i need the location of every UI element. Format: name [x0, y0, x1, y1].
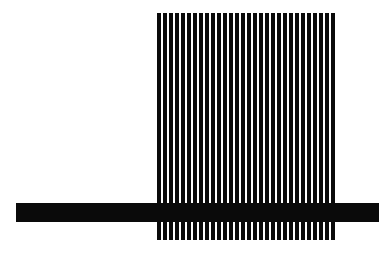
figure-canvas — [0, 0, 383, 258]
horizontal-band — [16, 203, 379, 222]
